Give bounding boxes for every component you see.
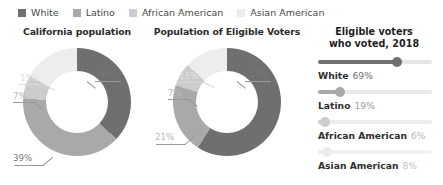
donut-california-population xyxy=(23,48,131,156)
legend-swatch-white-icon xyxy=(18,9,26,17)
slider-row-african-american[interactable]: African American6% xyxy=(308,120,440,141)
pct-african-american-california: 7% xyxy=(13,92,27,101)
chart-title-eligible-voters-population: Population of Eligible Voters xyxy=(152,26,302,37)
legend-label-asian-american: Asian American xyxy=(250,8,324,18)
slider-knob-white[interactable] xyxy=(392,57,402,67)
legend-swatch-african-american-icon xyxy=(129,9,137,17)
legend-label-latino: Latino xyxy=(86,8,115,18)
leader-line-white-california xyxy=(95,81,121,82)
chart-legend: White Latino African American Asian Amer… xyxy=(18,8,324,18)
pct-asian-american-california: 15% xyxy=(20,74,39,83)
slider-row-white[interactable]: White69% xyxy=(308,60,440,81)
leader-line-white-eligible xyxy=(245,81,271,82)
pct-white-eligible: 59% xyxy=(250,70,269,79)
slider-track-bg-african-american xyxy=(318,120,432,124)
pct-white-california: 37% xyxy=(100,70,119,79)
leader-line-latino-california-2 xyxy=(43,157,54,166)
slider-caption-white: White69% xyxy=(318,70,432,81)
slider-row-asian-american[interactable]: Asian American8% xyxy=(308,150,440,171)
slider-track-white[interactable] xyxy=(318,60,432,64)
slider-knob-african-american[interactable] xyxy=(320,117,330,127)
leader-line-african-american-california xyxy=(13,102,35,103)
right-panel-title-line2: who voted, 2018 xyxy=(329,38,419,49)
slider-knob-asian-american[interactable] xyxy=(322,147,332,157)
chart-california-population: California population 37% 39% 7% 15% xyxy=(2,26,152,185)
slider-label-african-american: African American xyxy=(318,130,407,141)
slider-value-latino: 19% xyxy=(354,100,374,111)
leader-line-asian-american-eligible xyxy=(177,82,205,83)
pct-latino-eligible: 21% xyxy=(155,133,174,142)
slider-knob-latino[interactable] xyxy=(335,87,345,97)
slider-track-african-american[interactable] xyxy=(318,120,432,124)
slider-label-latino: Latino xyxy=(318,100,350,111)
leader-line-asian-american-california xyxy=(19,84,45,85)
slider-caption-asian-american: Asian American8% xyxy=(318,160,432,171)
legend-item-african-american: African American xyxy=(129,8,223,18)
pct-asian-american-eligible: 11% xyxy=(179,72,198,81)
slider-caption-african-american: African American6% xyxy=(318,130,432,141)
slider-label-asian-american: Asian American xyxy=(318,160,398,171)
legend-item-asian-american: Asian American xyxy=(237,8,324,18)
right-panel-title-line1: Eligible voters xyxy=(335,26,413,37)
slider-track-latino[interactable] xyxy=(318,90,432,94)
slider-label-white: White xyxy=(318,70,348,81)
slider-caption-latino: Latino19% xyxy=(318,100,432,111)
legend-label-white: White xyxy=(31,8,59,18)
slider-row-latino[interactable]: Latino19% xyxy=(308,90,440,111)
pct-latino-california: 39% xyxy=(13,154,32,163)
slider-value-white: 69% xyxy=(352,70,372,81)
leader-line-african-american-eligible xyxy=(168,99,190,100)
slider-value-african-american: 6% xyxy=(411,130,426,141)
slider-value-asian-american: 8% xyxy=(402,160,417,171)
slider-track-bg-asian-american xyxy=(318,150,432,154)
leader-line-latino-eligible xyxy=(156,144,186,145)
legend-item-latino: Latino xyxy=(73,8,115,18)
eligible-voters-who-voted-panel: Eligible voters who voted, 2018 White69%… xyxy=(308,26,440,185)
leader-line-latino-california xyxy=(14,165,44,166)
pct-african-american-eligible: 7% xyxy=(168,89,182,98)
charts-container: California population 37% 39% 7% 15% Pop… xyxy=(0,26,443,185)
slider-track-asian-american[interactable] xyxy=(318,150,432,154)
legend-swatch-asian-american-icon xyxy=(237,9,245,17)
slider-track-fill-white xyxy=(318,60,397,64)
right-panel-title: Eligible voters who voted, 2018 xyxy=(308,26,440,50)
chart-eligible-voters-population: Population of Eligible Voters 59% 21% 7%… xyxy=(152,26,302,185)
chart-title-california-population: California population xyxy=(2,26,152,37)
legend-swatch-latino-icon xyxy=(73,9,81,17)
legend-label-african-american: African American xyxy=(142,8,223,18)
legend-item-white: White xyxy=(18,8,59,18)
